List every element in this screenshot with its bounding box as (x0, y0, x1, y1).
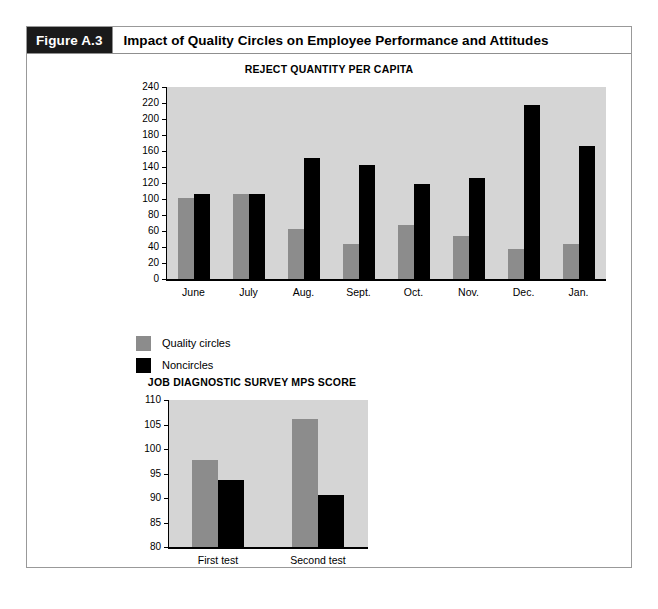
y-tick-label: 80 (124, 210, 159, 220)
x-category-label: Second test (268, 555, 368, 566)
bar (304, 158, 320, 279)
bar (563, 244, 579, 279)
bar (524, 105, 540, 279)
y-tick-label: 105 (126, 420, 161, 430)
y-tick-label: 20 (124, 258, 159, 268)
y-tick-mark (162, 151, 167, 152)
bar (292, 419, 318, 547)
chart-title-job-diagnostic-survey: JOB DIAGNOSTIC SURVEY MPS SCORE (87, 376, 417, 388)
y-tick-label: 100 (126, 444, 161, 454)
x-category-label: July (221, 287, 276, 298)
bar (194, 194, 210, 279)
y-tick-mark (162, 215, 167, 216)
y-tick-mark (162, 231, 167, 232)
figure-title: Impact of Quality Circles on Employee Pe… (112, 27, 631, 53)
y-tick-mark (162, 263, 167, 264)
x-category-label: Nov. (441, 287, 496, 298)
plot-area (166, 87, 606, 279)
legend-label-quality-circles: Quality circles (162, 337, 230, 349)
y-tick-mark (162, 199, 167, 200)
bar (218, 480, 244, 547)
y-tick-label: 120 (124, 178, 159, 188)
y-tick-label: 80 (126, 542, 161, 552)
bar (359, 165, 375, 279)
bar (192, 460, 218, 547)
y-tick-mark (162, 135, 167, 136)
bar (249, 194, 265, 279)
y-tick-label: 0 (124, 274, 159, 284)
y-tick-mark (162, 103, 167, 104)
y-tick-mark (162, 183, 167, 184)
y-tick-mark (162, 167, 167, 168)
x-category-label: June (166, 287, 221, 298)
y-tick-mark (162, 279, 167, 280)
bar (579, 146, 595, 279)
legend-item-noncircles: Noncircles (136, 354, 230, 376)
y-tick-label: 100 (124, 194, 159, 204)
bar (398, 225, 414, 279)
y-tick-label: 60 (124, 226, 159, 236)
y-tick-mark (162, 247, 167, 248)
y-tick-mark (164, 474, 169, 475)
x-axis-line (168, 547, 368, 549)
bar (233, 194, 249, 279)
y-tick-label: 180 (124, 130, 159, 140)
x-category-label: Dec. (496, 287, 551, 298)
y-tick-label: 140 (124, 162, 159, 172)
bar (414, 184, 430, 279)
y-tick-label: 160 (124, 146, 159, 156)
bar (508, 249, 524, 279)
y-tick-label: 90 (126, 493, 161, 503)
y-tick-mark (164, 523, 169, 524)
bar (318, 495, 344, 547)
bar (453, 236, 469, 279)
x-category-label: Jan. (551, 287, 606, 298)
x-category-label: First test (168, 555, 268, 566)
y-tick-mark (162, 119, 167, 120)
y-tick-mark (164, 498, 169, 499)
legend-item-quality-circles: Quality circles (136, 332, 230, 354)
y-tick-mark (164, 547, 169, 548)
legend-swatch-noncircles (136, 358, 151, 373)
y-tick-label: 95 (126, 469, 161, 479)
x-category-label: Oct. (386, 287, 441, 298)
legend-swatch-quality-circles (136, 336, 151, 351)
y-tick-label: 110 (126, 395, 161, 405)
legend-label-noncircles: Noncircles (162, 359, 213, 371)
y-tick-label: 240 (124, 82, 159, 92)
y-tick-mark (162, 87, 167, 88)
y-tick-label: 220 (124, 98, 159, 108)
y-tick-label: 85 (126, 518, 161, 528)
y-tick-mark (164, 400, 169, 401)
bar (343, 244, 359, 279)
chart-title-reject-quantity: REJECT QUANTITY PER CAPITA (27, 63, 631, 75)
chart-legend: Quality circles Noncircles (136, 332, 230, 376)
y-tick-label: 40 (124, 242, 159, 252)
figure-header: Figure A.3 Impact of Quality Circles on … (27, 27, 631, 54)
x-axis-line (166, 279, 606, 281)
x-category-label: Sept. (331, 287, 386, 298)
y-tick-mark (164, 449, 169, 450)
bar (469, 178, 485, 279)
bar (178, 198, 194, 279)
y-tick-label: 200 (124, 114, 159, 124)
x-category-label: Aug. (276, 287, 331, 298)
y-tick-mark (164, 425, 169, 426)
bar (288, 229, 304, 279)
figure-number-tag: Figure A.3 (27, 27, 112, 53)
figure-frame: Figure A.3 Impact of Quality Circles on … (26, 26, 632, 568)
